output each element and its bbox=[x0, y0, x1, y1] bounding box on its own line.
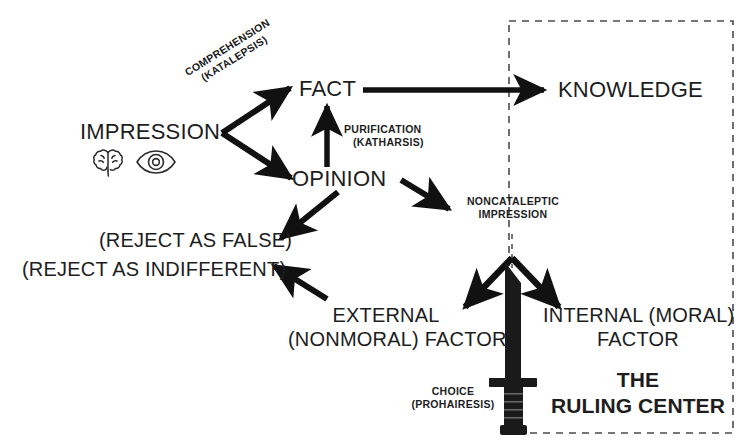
edge-label-purification-line1: PURIFICATION bbox=[344, 123, 424, 136]
node-reject-as-indifferent: (REJECT AS INDIFFERENT) bbox=[22, 258, 286, 281]
arrow-impression-to-fact bbox=[222, 88, 290, 133]
edge-label-noncataleptic-line2: IMPRESSION bbox=[455, 208, 571, 221]
node-external-nonmoral-factor: EXTERNAL (NONMORAL) FACTOR bbox=[288, 303, 484, 352]
impression-icons bbox=[91, 147, 177, 181]
node-internal-moral-factor: INTERNAL (MORAL) FACTOR bbox=[543, 303, 733, 352]
edge-label-noncataleptic-impression: NONCATALEPTIC IMPRESSION bbox=[455, 195, 571, 221]
brain-icon bbox=[91, 147, 125, 181]
node-fact: FACT bbox=[299, 76, 356, 102]
node-ruling-center-line1: THE bbox=[547, 367, 729, 393]
node-external-line1: EXTERNAL bbox=[288, 303, 484, 327]
node-internal-line2: FACTOR bbox=[543, 327, 733, 351]
edge-label-purification-line2: (KATHARSIS) bbox=[344, 136, 424, 149]
edge-label-choice-line2: (PROHAIRESIS) bbox=[411, 398, 495, 411]
diagram-canvas: IMPRESSION COMPREHENSION (KA bbox=[0, 0, 751, 448]
edge-label-choice-prohairesis: CHOICE (PROHAIRESIS) bbox=[411, 385, 495, 411]
edge-label-choice-line1: CHOICE bbox=[411, 385, 495, 398]
arrow-impression-to-opinion bbox=[222, 133, 291, 178]
node-opinion: OPINION bbox=[292, 166, 386, 192]
node-ruling-center: THE RULING CENTER bbox=[547, 367, 729, 418]
node-ruling-center-line2: RULING CENTER bbox=[547, 393, 729, 419]
node-knowledge: KNOWLEDGE bbox=[558, 77, 703, 103]
arrow-opinion-to-noncataleptic bbox=[401, 180, 449, 209]
eye-icon bbox=[135, 148, 177, 180]
edge-label-purification: PURIFICATION (KATHARSIS) bbox=[344, 123, 424, 149]
node-reject-as-false: (REJECT AS FALSE) bbox=[99, 229, 292, 252]
edge-label-noncataleptic-line1: NONCATALEPTIC bbox=[455, 195, 571, 208]
node-internal-line1: INTERNAL (MORAL) bbox=[543, 303, 733, 327]
arrow-noncataleptic-to-external bbox=[465, 258, 512, 307]
node-impression: IMPRESSION bbox=[80, 119, 220, 145]
node-external-line2: (NONMORAL) FACTOR bbox=[288, 327, 484, 351]
